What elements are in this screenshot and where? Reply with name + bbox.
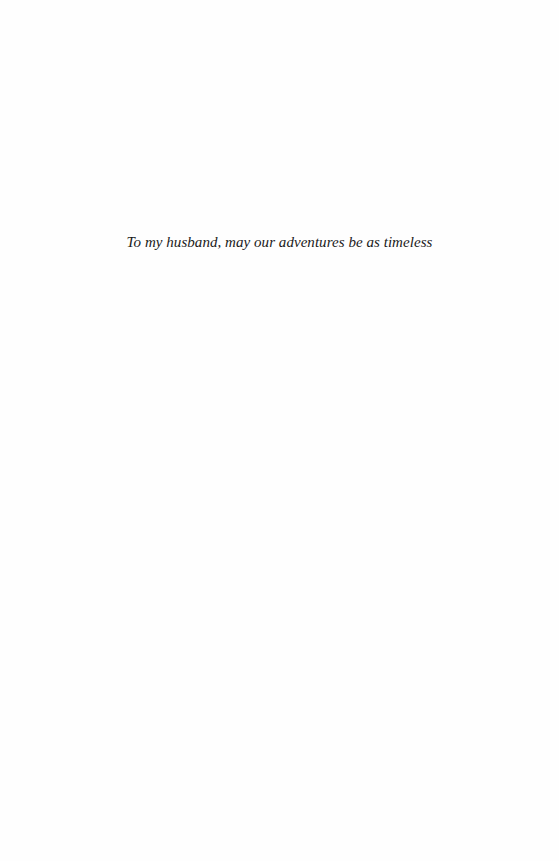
dedication-text: To my husband, may our adventures be as … [0, 232, 559, 252]
book-page: To my husband, may our adventures be as … [0, 0, 559, 861]
